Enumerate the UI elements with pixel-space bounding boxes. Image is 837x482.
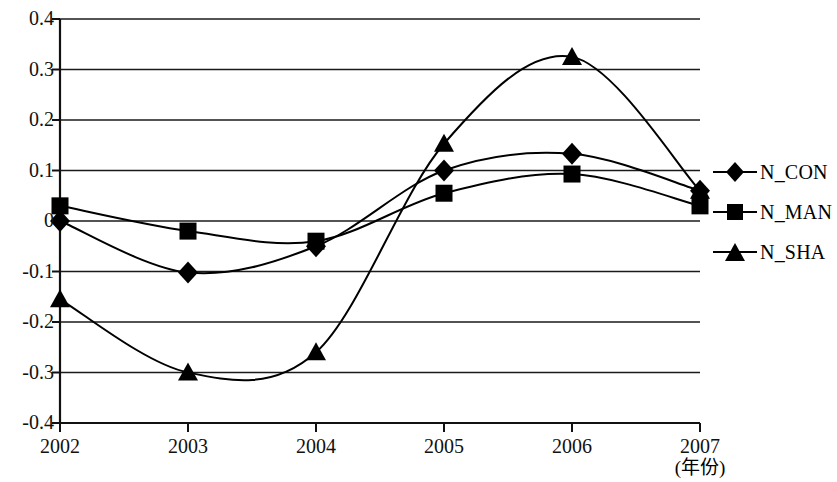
data-point-marker-diamond — [178, 262, 198, 284]
series-markers — [50, 47, 710, 381]
legend-item-n-man: N_MAN — [712, 192, 837, 232]
data-point-marker-triangle — [50, 289, 70, 307]
y-axis-tick-label: 0.1 — [0, 160, 54, 180]
y-axis-tick-label: -0.3 — [0, 362, 54, 382]
line-chart: 0.40.30.20.10-0.1-0.2-0.3-0.4 2002200320… — [0, 0, 837, 482]
x-axis-tick-label: 2005 — [399, 436, 489, 456]
y-axis-tick-label: 0.3 — [0, 59, 54, 79]
y-axis-tick-label: 0.4 — [0, 8, 54, 28]
legend-label-n-con: N_CON — [758, 162, 828, 182]
x-axis-tick-label: 2007 — [655, 436, 745, 456]
data-point-marker-square — [308, 233, 325, 250]
y-axis-tick-label: 0.2 — [0, 109, 54, 129]
y-axis-tick-label: -0.2 — [0, 311, 54, 331]
x-axis-tick-label: 2002 — [15, 436, 105, 456]
legend-marker-square-icon — [712, 200, 758, 224]
legend-item-n-con: N_CON — [712, 152, 837, 192]
x-axis-tick-label: 2004 — [271, 436, 361, 456]
data-point-marker-square — [692, 197, 709, 214]
y-axis-tick-label: -0.4 — [0, 412, 54, 432]
legend-label-n-sha: N_SHA — [758, 242, 825, 262]
series-lines — [60, 56, 700, 380]
data-point-marker-diamond — [434, 160, 454, 182]
data-point-marker-square — [52, 197, 69, 214]
x-axis-unit-label: (年份) — [655, 458, 745, 478]
data-point-marker-square — [564, 166, 581, 183]
legend-marker-triangle-icon — [712, 240, 758, 264]
data-point-marker-diamond — [562, 143, 582, 165]
y-axis-tick-label: 0 — [0, 210, 54, 230]
x-axis-tick-label: 2003 — [143, 436, 233, 456]
x-axis-ticks — [60, 423, 700, 432]
legend-label-n-man: N_MAN — [758, 202, 832, 222]
y-axis-tick-label: -0.1 — [0, 261, 54, 281]
legend-marker-diamond-icon — [712, 160, 758, 184]
data-point-marker-square — [436, 185, 453, 202]
chart-legend: N_CON N_MAN N_SHA — [712, 152, 837, 272]
gridlines — [60, 19, 700, 423]
data-point-marker-square — [180, 223, 197, 240]
x-axis-tick-label: 2006 — [527, 436, 617, 456]
legend-item-n-sha: N_SHA — [712, 232, 837, 272]
